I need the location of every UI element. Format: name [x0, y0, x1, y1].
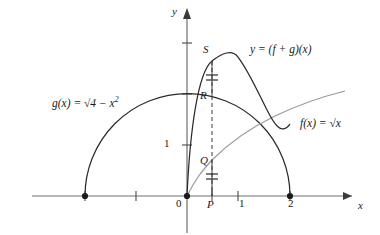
x-tick-label-1: 1 [239, 198, 245, 209]
radicand-g: 4 − x2 [90, 97, 118, 109]
point-marker-origin [184, 193, 190, 199]
y-axis-label: y [172, 6, 177, 17]
y-axis-arrow [183, 8, 191, 19]
point-label-S: S [203, 44, 209, 55]
point-label-Q: Q [200, 155, 208, 166]
origin-tick-label: 0 [176, 198, 182, 209]
curve-label-g: g(x) = √4 − x2 [52, 96, 119, 109]
radicand-g-base: 4 − x [90, 97, 114, 109]
x-tick-label-2: 2 [288, 198, 294, 209]
radicand-g-exponent: 2 [115, 95, 119, 104]
radicand-f: x [336, 117, 341, 129]
point-label-P: P [207, 199, 214, 210]
x-axis-label: x [358, 200, 363, 211]
y-tick-label-1: 1 [164, 138, 170, 149]
point-marker-neg2 [82, 193, 88, 199]
curve-label-g-prefix: g(x) = [52, 97, 84, 109]
math-figure: g(x) = √4 − x2 y = (f + g)(x) f(x) = √x … [0, 0, 380, 235]
curve-label-sum: y = (f + g)(x) [250, 44, 312, 56]
point-label-R: R [200, 90, 207, 101]
curve-label-f-prefix: f(x) = [300, 117, 329, 129]
curve-f-plus-g [187, 53, 290, 196]
x-axis-arrow [343, 192, 352, 200]
curve-label-f: f(x) = √x [300, 118, 341, 130]
